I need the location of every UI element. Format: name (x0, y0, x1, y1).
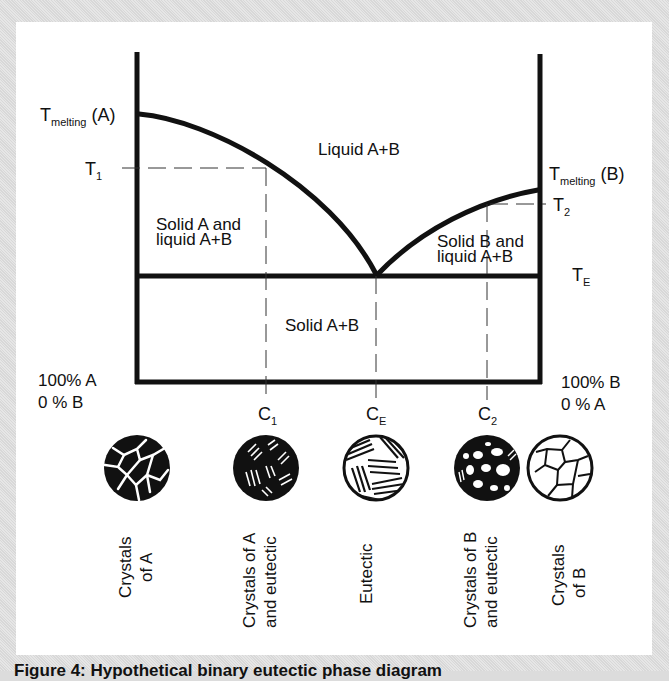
t1-label: T1 (85, 159, 102, 182)
t-melting-b-label: Tmelting (B) (549, 164, 624, 187)
region-liquid-label: Liquid A+B (318, 140, 400, 159)
microstructure-crystals-b-icon (528, 436, 592, 500)
microstructure-crystals-b-eutectic-icon (454, 435, 520, 501)
region-solid-label: Solid A+B (285, 316, 359, 335)
te-label: TE (572, 265, 590, 288)
right-composition-line1: 100% B (561, 373, 621, 392)
label-crystals-b-eutectic-line1: Crystals of B (461, 532, 480, 628)
label-eutectic: Eutectic (357, 543, 376, 604)
label-crystals-a-eutectic-line1: Crystals of A (240, 532, 259, 628)
region-solid-a-liquid-label-line2: liquid A+B (156, 230, 232, 249)
label-crystals-b-line2: of B (570, 568, 589, 598)
microstructure-labels: Crystals of A Crystals of A and eutectic… (116, 532, 589, 628)
figure-caption: Figure 4: Hypothetical binary eutectic p… (14, 661, 442, 681)
left-composition-line1: 100% A (38, 371, 97, 390)
microstructure-crystals-a-icon (104, 435, 170, 501)
ce-label: CE (366, 404, 386, 427)
c1-label: C1 (258, 404, 277, 427)
label-crystals-b-line1: Crystals (549, 545, 568, 606)
t2-label: T2 (553, 195, 570, 218)
c2-label: C2 (478, 404, 497, 427)
t-melting-a-label: Tmelting (A) (40, 105, 115, 128)
region-solid-b-liquid-label-line2: liquid A+B (437, 247, 513, 266)
label-crystals-a-line1: Crystals (116, 537, 135, 598)
microstructure-eutectic-icon (344, 436, 408, 500)
left-composition-line2: 0 % B (38, 393, 83, 412)
label-crystals-b-eutectic-line2: and eutectic (482, 536, 501, 628)
label-crystals-a-eutectic-line2: and eutectic (261, 536, 280, 628)
label-crystals-a-line2: of A (137, 552, 156, 582)
microstructure-crystals-a-eutectic-icon (233, 435, 299, 501)
liquidus-curve-a (139, 114, 376, 274)
right-composition-line2: 0 % A (561, 395, 606, 414)
